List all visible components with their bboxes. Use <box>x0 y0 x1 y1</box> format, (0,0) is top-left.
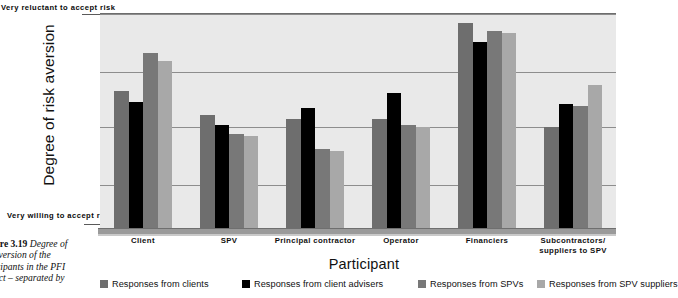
bar <box>588 85 603 228</box>
y-axis-top-endpoint-label: Very reluctant to accept risk <box>1 3 115 12</box>
legend-swatch-icon <box>537 280 545 288</box>
bar <box>559 104 574 228</box>
x-axis-category-label-line: suppliers to SPV <box>539 246 607 255</box>
legend-label: Responses from SPV suppliers <box>549 279 678 289</box>
x-axis-category-label-line: Financiers <box>466 236 509 245</box>
caption-line-2: k aversion of the <box>0 249 51 260</box>
bar <box>315 149 330 228</box>
bar <box>573 106 588 228</box>
legend-swatch-icon <box>242 280 250 288</box>
bar <box>387 93 402 228</box>
y-axis-bottom-tick <box>84 224 100 225</box>
caption-line-4: oject – separated by <box>0 272 65 283</box>
x-axis-category-label-line: Principal contractor <box>275 236 356 245</box>
caption-line-1: Degree of <box>27 238 67 249</box>
gridline-2 <box>100 127 616 128</box>
bar <box>200 115 215 228</box>
legend-label: Responses from clients <box>112 279 209 289</box>
legend-swatch-icon <box>418 280 426 288</box>
bar <box>458 23 473 228</box>
bar <box>158 61 173 228</box>
bar <box>416 127 431 228</box>
bar <box>244 136 259 228</box>
figure-caption: igure 3.19 Degree of k aversion of the r… <box>0 238 105 284</box>
x-axis-category-label: Subcontractors/suppliers to SPV <box>530 236 616 255</box>
bar <box>544 127 559 228</box>
figure-number: igure 3.19 <box>0 238 27 249</box>
bar <box>301 108 316 228</box>
x-axis-category-label-line: Subcontractors/ <box>540 236 605 245</box>
bar <box>473 42 488 228</box>
legend-item: Responses from SPVs <box>418 279 523 289</box>
chart-legend: Responses from clientsResponses from cli… <box>100 279 616 293</box>
legend-item: Responses from client advisers <box>242 279 383 289</box>
bar <box>114 91 129 228</box>
bar <box>487 31 502 228</box>
x-axis-category-label-line: Operator <box>383 236 419 245</box>
bar <box>502 33 517 228</box>
x-axis-category-label-line: Client <box>131 236 155 245</box>
legend-label: Responses from SPVs <box>430 279 523 289</box>
legend-swatch-icon <box>100 280 108 288</box>
bar <box>286 119 301 228</box>
bar <box>129 102 144 228</box>
legend-item: Responses from SPV suppliers <box>537 279 678 289</box>
y-axis-bottom-endpoint-label: Very willing to accept risk <box>7 211 112 220</box>
gridline-0 <box>100 14 616 15</box>
bar <box>143 53 158 228</box>
x-axis-category-label-line: SPV <box>221 236 238 245</box>
x-axis-category-label: SPV <box>186 236 272 246</box>
bar <box>229 134 244 228</box>
y-axis-top-tick <box>82 14 100 15</box>
bar <box>215 125 230 228</box>
gridline-3 <box>100 185 616 186</box>
bar <box>372 119 387 228</box>
x-axis-category-label: Principal contractor <box>272 236 358 246</box>
plot-area <box>100 14 616 228</box>
y-axis-title: Degree of risk aversion <box>40 20 58 190</box>
legend-label: Responses from client advisers <box>254 279 383 289</box>
x-axis-category-label: Operator <box>358 236 444 246</box>
caption-line-3: rticipants in the PFI <box>0 261 65 272</box>
x-axis-category-label: Financiers <box>444 236 530 246</box>
bar <box>330 151 345 228</box>
x-axis-category-label: Client <box>100 236 186 246</box>
gridline-1 <box>100 72 616 73</box>
legend-item: Responses from clients <box>100 279 209 289</box>
bar <box>401 125 416 228</box>
